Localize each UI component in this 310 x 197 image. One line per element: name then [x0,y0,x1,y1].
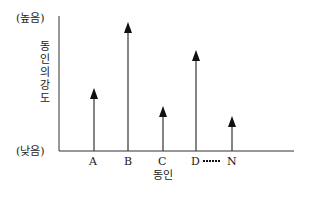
y-axis-char: 동 [39,40,51,53]
y-axis-char: 인 [39,53,51,66]
arrow-N [228,116,236,151]
x-tick-B: B [124,156,132,167]
x-tick-D: D [191,156,200,167]
y-axis-title: 동 인 의 강 도 [39,40,51,105]
arrow-B [124,22,132,151]
y-top-label: (높음) [16,13,45,24]
y-axis-char: 강 [39,79,51,92]
arrow-C [159,106,167,151]
arrow-D [192,50,200,151]
x-tick-C: C [158,156,166,167]
y-bottom-label: (낮음) [16,146,45,157]
x-tick-N: N [227,156,237,167]
y-axis-char: 의 [39,66,51,79]
arrow-A [90,88,98,151]
y-axis-char: 도 [39,92,51,105]
x-tick-A: A [89,156,97,167]
x-axis-title: 동인 [153,170,173,181]
